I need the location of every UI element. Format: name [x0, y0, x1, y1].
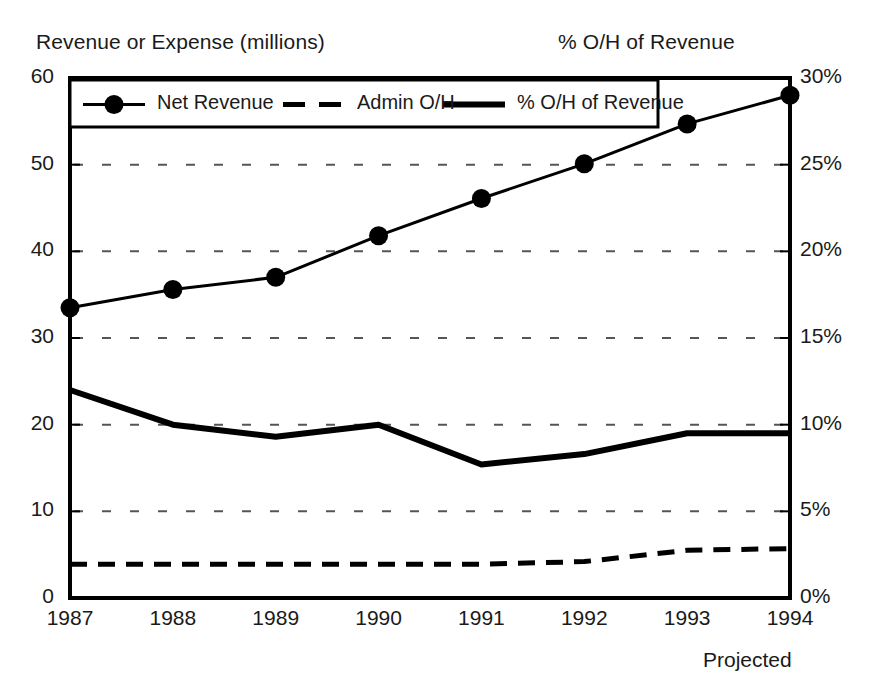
data-point-marker [163, 280, 182, 299]
left-axis-tick-label: 50 [0, 151, 54, 175]
series-line-o-h-of-revenue [70, 390, 790, 465]
x-axis-tick-label: 1989 [231, 606, 321, 630]
data-point-marker [678, 114, 697, 133]
x-axis-tick-label: 1987 [25, 606, 115, 630]
legend-sample-marker [105, 95, 124, 114]
legend-item-label: Admin O/H [357, 91, 455, 114]
left-axis-tick-label: 20 [0, 411, 54, 435]
left-axis-tick-label: 0 [0, 584, 54, 608]
series-layer [61, 86, 800, 564]
legend-item-label: Net Revenue [157, 91, 274, 114]
legend-item-label: % O/H of Revenue [517, 91, 684, 114]
right-axis-tick-label: 5% [800, 497, 869, 521]
left-axis-tick-label: 30 [0, 324, 54, 348]
x-axis-tick-label: 1994 [745, 606, 835, 630]
data-point-marker [61, 298, 80, 317]
plot-frame [70, 78, 790, 598]
left-axis-tick-label: 40 [0, 237, 54, 261]
series-line-admin-o-h [70, 549, 790, 565]
data-point-marker [266, 268, 285, 287]
left-axis-tick-label: 60 [0, 64, 54, 88]
projected-annotation: Projected [703, 648, 792, 672]
data-point-marker [369, 226, 388, 245]
right-axis-tick-label: 10% [800, 411, 869, 435]
x-axis-tick-label: 1990 [334, 606, 424, 630]
x-axis-tick-label: 1988 [128, 606, 218, 630]
right-axis-tick-label: 20% [800, 237, 869, 261]
right-axis-tick-label: 15% [800, 324, 869, 348]
x-axis-tick-label: 1991 [436, 606, 526, 630]
right-axis-tick-label: 30% [800, 64, 869, 88]
x-axis-tick-label: 1993 [642, 606, 732, 630]
data-point-marker [781, 86, 800, 105]
data-point-marker [472, 189, 491, 208]
data-point-marker [575, 154, 594, 173]
left-axis-tick-label: 10 [0, 497, 54, 521]
right-axis-tick-label: 25% [800, 151, 869, 175]
x-axis-tick-label: 1992 [539, 606, 629, 630]
chart-figure: Revenue or Expense (millions) % O/H of R… [0, 0, 869, 690]
right-axis-tick-label: 0% [800, 584, 869, 608]
